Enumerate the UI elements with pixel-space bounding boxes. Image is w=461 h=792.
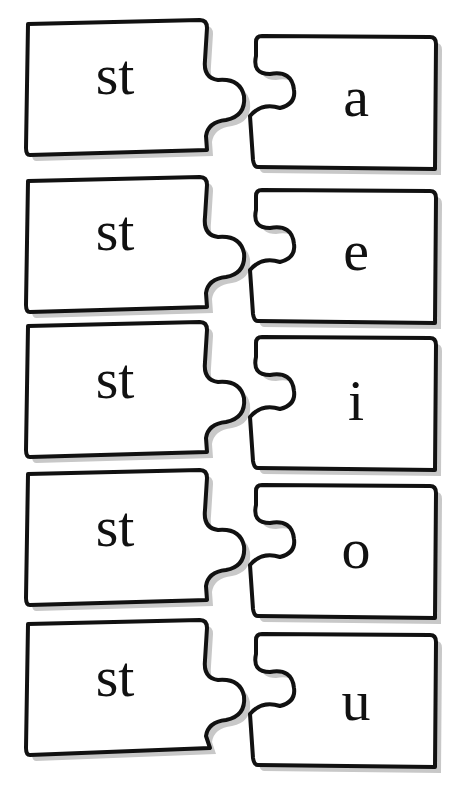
right-puzzle-piece[interactable] [0, 0, 461, 792]
puzzle-worksheet: st a st e [0, 0, 461, 792]
